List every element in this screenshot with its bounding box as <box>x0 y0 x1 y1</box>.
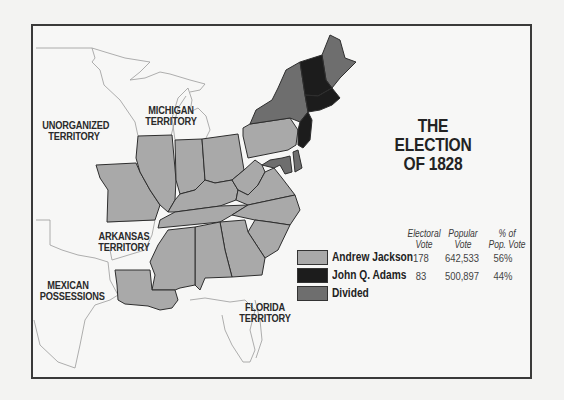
header-electoral-vote: Electoral Vote <box>403 228 446 250</box>
state-maine <box>322 35 356 88</box>
label-michigan-territory: MICHIGAN TERRITORY <box>145 105 198 127</box>
swatch-divided <box>297 286 328 301</box>
header-line: Vote <box>403 239 446 250</box>
header-percent-pop-vote: % of Pop. Vote <box>484 228 530 250</box>
title-line-2: OF 1828 <box>380 154 487 173</box>
header-line: Popular <box>442 228 485 239</box>
label-line: POSSESSIONS <box>40 291 96 302</box>
electoral-vote-adams: 83 <box>399 270 444 282</box>
percent-jackson: 56% <box>481 252 526 264</box>
percent-adams: 44% <box>481 270 526 282</box>
label-line: TERRITORY <box>42 131 105 142</box>
popular-vote-jackson: 642,533 <box>440 252 485 264</box>
legend-name-adams: John Q. Adams <box>332 268 406 282</box>
swatch-adams <box>297 268 328 283</box>
swatch-jackson <box>297 250 328 265</box>
state-delaware <box>293 150 302 172</box>
map-title: THE ELECTION OF 1828 <box>380 116 487 173</box>
label-mexican-possessions: MEXICAN POSSESSIONS <box>40 280 96 302</box>
legend-name-divided: Divided <box>332 286 369 300</box>
state-mississippi <box>150 227 195 290</box>
popular-vote-adams: 500,897 <box>440 270 485 282</box>
header-popular-vote: Popular Vote <box>442 228 485 250</box>
header-line: Vote <box>442 239 485 250</box>
header-line: Pop. Vote <box>484 239 530 250</box>
us-map-1828 <box>0 0 564 400</box>
title-line-1: THE ELECTION <box>380 116 487 154</box>
label-unorganized-territory: UNORGANIZED TERRITORY <box>42 120 105 142</box>
label-line: TERRITORY <box>237 313 293 324</box>
state-new-york <box>250 62 308 124</box>
label-florida-territory: FLORIDA TERRITORY <box>237 302 293 324</box>
header-line: % of <box>484 228 530 239</box>
header-line: Electoral <box>403 228 446 239</box>
electoral-vote-jackson: 178 <box>399 252 444 264</box>
label-arkansas-territory: ARKANSAS TERRITORY <box>96 231 152 253</box>
label-line: TERRITORY <box>145 116 198 127</box>
label-line: TERRITORY <box>96 242 152 253</box>
